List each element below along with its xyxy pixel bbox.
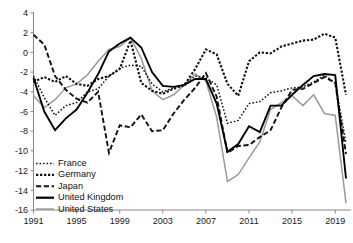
legend-item-france[interactable]: France xyxy=(36,158,87,168)
chart-legend: FranceGermanyJapanUnited KingdomUnited S… xyxy=(36,158,124,214)
y-tick-label: -14 xyxy=(15,186,28,196)
y-tick-label: 4 xyxy=(23,8,28,18)
x-tick-label: 2003 xyxy=(153,216,173,226)
x-tick-label: 2019 xyxy=(325,216,345,226)
legend-item-united-kingdom[interactable]: United Kingdom xyxy=(36,192,124,202)
line-chart: 420-2-4-6-8-10-12-14-16 1991199519992003… xyxy=(0,0,353,243)
legend-label-germany: Germany xyxy=(58,169,96,179)
y-tick-label: -6 xyxy=(20,107,28,117)
y-tick-label: -16 xyxy=(15,205,28,215)
legend-label-japan: Japan xyxy=(58,181,83,191)
x-tick-label: 2015 xyxy=(282,216,302,226)
chart-canvas: 420-2-4-6-8-10-12-14-16 1991199519992003… xyxy=(0,0,353,243)
legend-item-japan[interactable]: Japan xyxy=(36,181,83,191)
x-tick-label: 1999 xyxy=(110,216,130,226)
y-tick-label: -4 xyxy=(20,87,28,97)
legend-label-united-states: United States xyxy=(58,204,114,214)
y-tick-label: 2 xyxy=(23,28,28,38)
series-line-germany xyxy=(34,34,347,96)
y-tick-label: -2 xyxy=(20,67,28,77)
x-tick-label: 2007 xyxy=(196,216,216,226)
y-tick-label: -12 xyxy=(15,166,28,176)
y-tick-label: -8 xyxy=(20,126,28,136)
legend-item-germany[interactable]: Germany xyxy=(36,169,96,179)
x-tick-label: 1991 xyxy=(23,216,43,226)
legend-item-united-states[interactable]: United States xyxy=(36,204,114,214)
legend-label-united-kingdom: United Kingdom xyxy=(58,192,124,202)
y-axis: 420-2-4-6-8-10-12-14-16 xyxy=(15,8,34,215)
x-tick-label: 1995 xyxy=(67,216,87,226)
x-tick-label: 2011 xyxy=(239,216,258,226)
legend-label-france: France xyxy=(58,158,87,168)
series-line-japan xyxy=(34,35,347,154)
y-tick-label: -10 xyxy=(15,146,28,156)
y-tick-label: 0 xyxy=(23,48,28,58)
